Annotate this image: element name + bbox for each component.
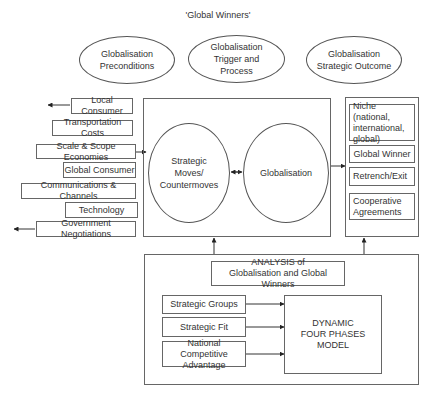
strategic-moves-ellipse: Strategic Moves/ Countermoves	[148, 123, 230, 223]
precondition-scale-scope: Scale & Scope Economies	[36, 144, 136, 159]
outcome-retrench-exit: Retrench/Exit	[349, 167, 415, 186]
outcome-niche: Niche (national, international, global)	[349, 104, 415, 141]
outcome-global-winner: Global Winner	[349, 145, 415, 163]
outcome-cooperative: Cooperative Agreements	[349, 193, 415, 220]
analysis-title-box: ANALYSIS of Globalisation and Global Win…	[211, 261, 345, 286]
input-strategic-fit: Strategic Fit	[162, 317, 246, 337]
precondition-technology: Technology	[65, 202, 138, 218]
precondition-transportation-costs: Transportation Costs	[52, 120, 133, 136]
precondition-global-consumer: Global Consumer	[63, 162, 136, 178]
precondition-communications: Communications & Channels	[21, 183, 136, 199]
precondition-government: Government Negotiations	[36, 221, 136, 237]
dynamic-four-phases-model: DYNAMIC FOUR PHASES MODEL	[284, 295, 382, 374]
precondition-local-consumer: Local Consumer	[71, 98, 133, 114]
global-winners-diagram: 'Global Winners' Globalisation Precondit…	[0, 0, 436, 400]
input-national-competitive-advantage: National Competitive Advantage	[162, 341, 246, 367]
globalisation-ellipse: Globalisation	[243, 123, 329, 223]
input-strategic-groups: Strategic Groups	[162, 295, 246, 314]
